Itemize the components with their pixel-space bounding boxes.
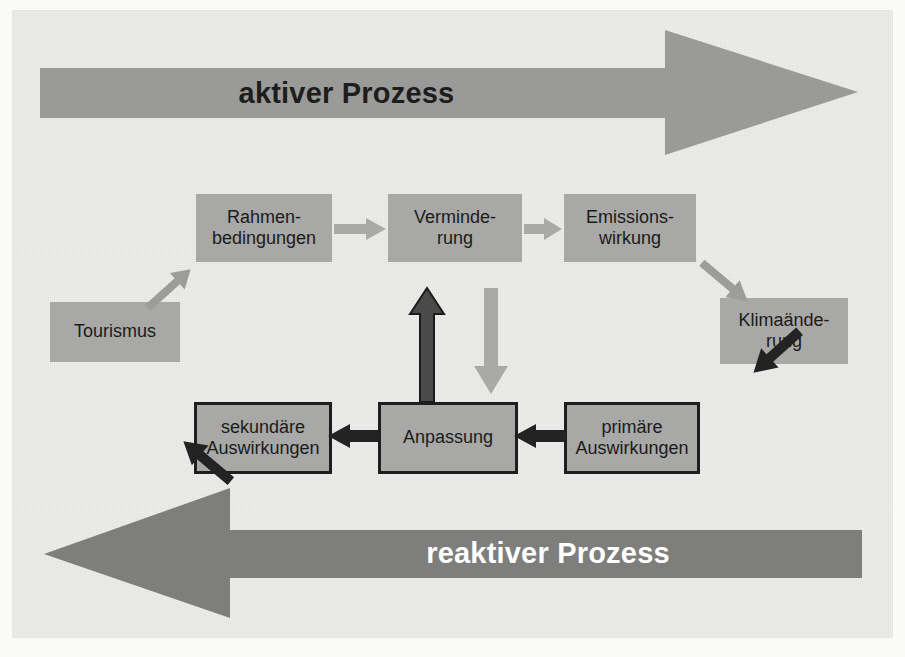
node-rahmenbedingungen-label: Rahmen- bedingungen	[212, 207, 316, 249]
arrow-primaere-to-anpassung	[514, 424, 566, 448]
arrow-emissionswirkung-to-klimaaenderung	[700, 262, 766, 314]
diagram-page: aktiver Prozess Rahmen- bedingungen Verm…	[0, 0, 905, 657]
banner-aktiver-prozess-shape	[40, 30, 858, 155]
arrow-sekundaere-to-tourismus	[140, 360, 214, 418]
node-verminderung-label: Verminde- rung	[414, 207, 496, 249]
arrow-klimaaenderung-to-primaere	[688, 366, 760, 422]
node-anpassung-label: Anpassung	[403, 427, 493, 448]
node-emissionswirkung-label: Emissions- wirkung	[586, 207, 674, 249]
arrow-rahmen-to-verminderung	[334, 218, 388, 240]
banner-reaktiver-prozess-shape	[44, 488, 862, 618]
banner-reaktiver-prozess: reaktiver Prozess	[44, 488, 862, 618]
banner-aktiver-prozess: aktiver Prozess	[40, 30, 858, 155]
node-verminderung[interactable]: Verminde- rung	[388, 194, 522, 262]
diagram-canvas: aktiver Prozess Rahmen- bedingungen Verm…	[12, 10, 893, 638]
arrow-verminderung-to-anpassung	[474, 288, 508, 394]
arrow-anpassung-to-verminderung	[410, 288, 444, 402]
node-anpassung[interactable]: Anpassung	[378, 402, 518, 474]
arrow-verminderung-to-emissionswirkung	[524, 218, 564, 240]
arrow-anpassung-to-sekundaere	[328, 424, 380, 448]
node-primaere-auswirkungen[interactable]: primäre Auswirkungen	[564, 402, 700, 474]
node-tourismus[interactable]: Tourismus	[50, 302, 180, 362]
node-primaere-auswirkungen-label: primäre Auswirkungen	[575, 417, 688, 459]
node-sekundaere-auswirkungen-label: sekundäre Auswirkungen	[206, 417, 319, 459]
arrow-tourismus-to-rahmen	[146, 254, 214, 310]
node-tourismus-label: Tourismus	[74, 321, 156, 342]
node-rahmenbedingungen[interactable]: Rahmen- bedingungen	[196, 194, 332, 262]
node-emissionswirkung[interactable]: Emissions- wirkung	[564, 194, 696, 262]
